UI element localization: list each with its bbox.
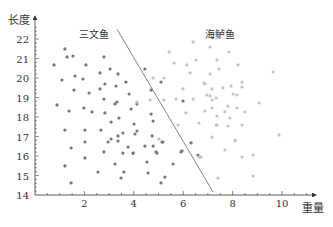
data-point	[152, 120, 155, 123]
data-point	[209, 94, 212, 97]
data-point	[107, 140, 110, 143]
y-tick-label: 18	[16, 112, 29, 123]
data-point	[113, 162, 116, 165]
data-point	[147, 171, 150, 174]
data-point	[73, 74, 76, 77]
data-point	[173, 61, 176, 64]
data-point	[203, 109, 206, 112]
data-point	[128, 92, 131, 95]
data-point	[83, 156, 86, 159]
data-point	[82, 106, 85, 109]
data-point	[135, 129, 138, 132]
data-point	[192, 40, 195, 43]
data-point	[119, 176, 122, 179]
data-point	[103, 82, 106, 85]
data-point	[272, 70, 275, 73]
data-point	[181, 87, 184, 90]
data-point	[198, 155, 201, 158]
x-tick-label: 2	[81, 198, 87, 209]
data-point	[83, 140, 86, 143]
data-point	[205, 93, 208, 96]
data-point	[215, 59, 218, 62]
y-tick-label: 14	[16, 190, 29, 201]
data-point	[155, 152, 158, 155]
data-point	[223, 148, 226, 151]
data-point	[192, 98, 195, 101]
data-point	[109, 67, 112, 70]
data-point	[215, 123, 218, 126]
data-point	[240, 123, 243, 126]
data-point	[52, 63, 55, 66]
data-point	[121, 131, 124, 134]
x-axis-label: 重量	[302, 201, 324, 215]
data-point	[70, 146, 73, 149]
data-point	[149, 98, 152, 101]
data-point	[127, 145, 130, 148]
data-point	[240, 81, 243, 84]
data-point	[172, 162, 175, 165]
data-point	[66, 55, 69, 58]
data-point	[88, 91, 91, 94]
data-point	[117, 116, 120, 119]
data-point	[221, 86, 224, 89]
data-point	[160, 140, 163, 143]
data-point	[63, 164, 66, 167]
data-point	[235, 93, 238, 96]
data-point	[124, 81, 127, 84]
y-tick-label: 21	[16, 54, 29, 65]
y-tick-label: 17	[16, 132, 29, 143]
data-point	[179, 150, 182, 153]
data-point	[168, 51, 171, 54]
data-point	[98, 71, 101, 74]
data-point	[83, 129, 86, 132]
data-point	[223, 110, 226, 113]
data-point	[96, 170, 99, 173]
data-point	[143, 145, 146, 148]
data-point	[202, 82, 205, 85]
data-point	[215, 97, 218, 100]
data-point	[116, 134, 119, 137]
data-point	[181, 99, 184, 102]
data-point	[211, 136, 214, 139]
data-point	[72, 89, 75, 92]
data-point	[226, 105, 229, 108]
data-point	[277, 133, 280, 136]
data-point	[234, 139, 237, 142]
data-point	[189, 71, 192, 74]
data-point	[163, 176, 166, 179]
y-axis-label: 长度	[8, 13, 30, 27]
data-point	[211, 98, 214, 101]
data-point	[63, 47, 66, 50]
y-tick-label: 16	[16, 151, 29, 162]
data-point	[102, 150, 105, 153]
data-point	[113, 102, 116, 105]
data-point	[174, 98, 177, 101]
data-point	[151, 134, 154, 137]
data-point	[230, 84, 233, 87]
data-point	[185, 63, 188, 66]
data-point	[232, 92, 235, 95]
data-point	[209, 72, 212, 75]
data-point	[84, 63, 87, 66]
data-point	[132, 122, 135, 125]
data-point	[227, 51, 230, 54]
annotation-salmon: 三文鱼	[79, 28, 109, 40]
x-tick-label: 6	[180, 198, 186, 209]
data-point	[235, 106, 238, 109]
data-point	[197, 121, 200, 124]
x-tick-label: 8	[229, 198, 235, 209]
data-point	[99, 129, 102, 132]
data-point	[211, 87, 214, 90]
data-point	[143, 67, 146, 70]
data-point	[184, 111, 187, 114]
y-tick-label: 20	[16, 73, 29, 84]
data-point	[55, 103, 58, 106]
data-point	[226, 124, 229, 127]
data-point	[116, 72, 119, 75]
data-point	[116, 139, 119, 142]
scatter-chart: 246810141516171819202122 长度 重量 三文鱼 海鲈鱼	[0, 0, 333, 227]
data-point	[110, 137, 113, 140]
data-point	[133, 132, 136, 135]
data-point	[257, 101, 260, 104]
data-point	[162, 98, 165, 101]
